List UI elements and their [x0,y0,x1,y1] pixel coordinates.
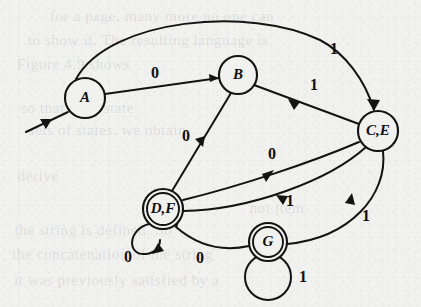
edge-B-to-CE: 1 [254,76,359,124]
edge-DF-self-loop: 0 [124,224,164,265]
edge-line [105,78,219,94]
edge-B-to-DF: 0 [172,93,231,191]
state-label-DF: D,F [150,200,176,216]
state-label-CE: C,E [366,122,390,138]
state-label-A: A [79,89,90,105]
edge-line [254,85,359,124]
arrowhead [345,193,355,205]
arrowhead [367,99,380,111]
start-arrow [26,112,68,132]
arrowhead [152,243,164,254]
edge-G-to-DF: 0 [168,217,249,266]
edge-A-to-B: 0 [105,64,219,94]
state-diagram-canvas: 0 1 1 0 0 1 [0,0,421,307]
edge-label-CE-DF: 0 [268,145,276,162]
state-label-B: B [232,66,243,82]
state-node-DF[interactable]: D,F [143,189,183,229]
edge-label-B-DF: 0 [182,127,190,144]
state-node-G[interactable]: G [249,223,287,261]
edge-label-CE-G: 1 [362,207,370,224]
edge-label-B-CE: 1 [310,76,318,93]
edge-label-A-B: 0 [151,64,159,81]
edge-label-DF-self: 0 [124,248,132,265]
edge-label-DF-CE: 1 [286,192,294,209]
arrowhead [209,74,219,82]
edge-label-G-self: 1 [299,268,307,285]
edge-curve [176,227,249,248]
arrowhead [262,170,274,182]
state-node-CE[interactable]: C,E [358,111,398,151]
state-node-B[interactable]: B [219,56,257,94]
edge-label-G-DF: 0 [196,249,204,266]
edge-G-self-loop: 1 [245,254,307,300]
state-node-A[interactable]: A [65,78,105,118]
edge-label-A-CE: 1 [330,40,338,57]
state-label-G: G [263,233,274,249]
automaton-figure: for a page, many more no one canto show … [0,0,421,307]
